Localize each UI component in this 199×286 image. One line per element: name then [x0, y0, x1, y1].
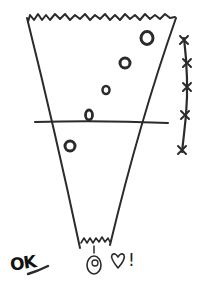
x-track-line — [182, 38, 187, 152]
circle-marker — [141, 32, 153, 45]
circle-marker — [103, 86, 110, 94]
exclamation-label: ! — [128, 250, 135, 270]
heart-icon — [112, 254, 125, 268]
funnel-bottom-jagged-edge — [81, 237, 110, 243]
circle-marker — [65, 141, 75, 151]
sketch-canvas — [0, 0, 199, 286]
funnel-top-jagged-edge — [28, 14, 175, 22]
x-marked-line — [178, 36, 191, 154]
circle-marker — [120, 58, 130, 68]
ok-label: OK — [9, 251, 37, 274]
funnel-left-side — [27, 18, 80, 248]
threshold-line — [35, 121, 168, 123]
circle-marker — [86, 110, 93, 120]
face-icon — [87, 246, 101, 274]
funnel-right-side — [110, 18, 176, 245]
